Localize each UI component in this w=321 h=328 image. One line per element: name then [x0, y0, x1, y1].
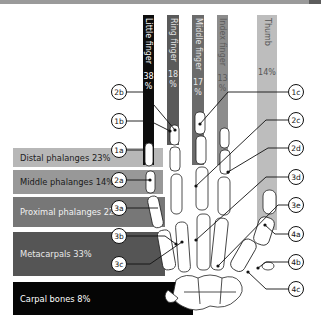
callout-3b: 3b	[111, 228, 127, 244]
bone-index-metacarpal	[210, 218, 228, 271]
callout-2c: 2c	[288, 112, 304, 128]
bone-index-distal	[220, 128, 229, 148]
callout-4b: 4b	[288, 254, 304, 270]
hand-skeleton-illustration	[0, 0, 321, 328]
bone-ring-middle	[170, 147, 180, 171]
callout-1a: 1a	[111, 142, 127, 158]
bone-ring-distal	[170, 125, 179, 145]
bone-middle-proximal	[196, 167, 208, 210]
callout-3a: 3a	[111, 200, 127, 216]
callout-4a: 4a	[288, 226, 304, 242]
bone-little-distal	[145, 143, 153, 166]
bone-ring-metacarpal	[175, 222, 190, 273]
bone-little-metacarpal	[157, 229, 177, 271]
bone-thumb-metacarpal	[228, 237, 258, 274]
callout-2b: 2b	[111, 84, 127, 100]
bone-thumb-proximal	[252, 215, 276, 247]
callout-1c: 1c	[288, 84, 304, 100]
callout-2a: 2a	[111, 172, 127, 188]
bone-index-proximal	[218, 177, 230, 215]
callout-3e: 3e	[288, 197, 304, 213]
bone-ring-proximal	[171, 174, 182, 214]
bone-little-middle	[146, 171, 155, 193]
callout-2d: 2d	[288, 140, 304, 156]
bone-middle-middle	[196, 136, 206, 164]
callout-4c: 4c	[288, 281, 304, 297]
bone-thumb-distal	[263, 190, 276, 214]
callout-1b: 1b	[111, 113, 127, 129]
callout-3d: 3d	[288, 169, 304, 185]
bone-little-proximal	[147, 195, 164, 229]
carpal-bones	[173, 275, 242, 310]
bone-middle-metacarpal	[197, 214, 210, 270]
callout-3c: 3c	[111, 256, 127, 272]
